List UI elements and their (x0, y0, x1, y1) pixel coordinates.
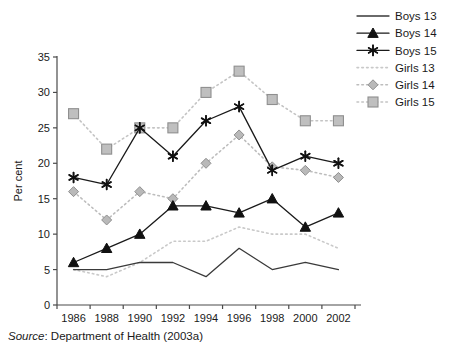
square-marker (102, 144, 112, 154)
triangle-marker (101, 243, 111, 252)
diamond-marker (333, 172, 343, 182)
y-axis-tick-label: 35 (38, 51, 50, 63)
series-girls-13 (74, 227, 339, 277)
line-chart: 05101520253035Per cent198619881990199219… (0, 0, 459, 352)
legend-label: Girls 14 (395, 79, 435, 91)
y-axis-tick-label: 30 (38, 86, 50, 98)
data-point-diamond (300, 165, 310, 175)
data-point-square (234, 66, 244, 76)
x-axis-tick-label: 1998 (260, 312, 284, 324)
x-axis-tick-label: 1990 (128, 312, 152, 324)
x-axis-tick-label: 1992 (161, 312, 185, 324)
legend-label: Boys 15 (395, 45, 437, 57)
square-marker (234, 66, 244, 76)
legend-label: Boys 13 (395, 10, 437, 22)
data-point-triangle (68, 257, 78, 266)
y-axis-title: Per cent (12, 161, 24, 202)
y-axis-tick-label: 20 (38, 157, 50, 169)
source-citation: : Department of Health (2003a) (44, 330, 203, 342)
legend-item-girls-13[interactable]: Girls 13 (357, 62, 435, 74)
data-point-square (368, 97, 378, 107)
legend-label: Girls 15 (395, 96, 435, 108)
data-point-square (69, 109, 79, 119)
data-point-square (300, 116, 310, 126)
legend-label: Girls 13 (395, 62, 435, 74)
square-marker (267, 95, 277, 105)
plot-area: 05101520253035Per cent198619881990199219… (12, 10, 437, 324)
data-point-square (201, 87, 211, 97)
x-axis-tick-label: 1986 (61, 312, 85, 324)
y-axis-tick-label: 10 (38, 228, 50, 240)
data-point-square (168, 123, 178, 133)
source-label: Source (8, 330, 44, 342)
square-marker (69, 109, 79, 119)
diamond-marker (300, 165, 310, 175)
series-line (74, 227, 339, 277)
y-axis-tick-label: 15 (38, 193, 50, 205)
series-line (74, 71, 339, 149)
x-axis-tick-label: 2002 (326, 312, 350, 324)
triangle-marker (68, 257, 78, 266)
square-marker (201, 87, 211, 97)
square-marker (168, 123, 178, 133)
series-line (74, 248, 339, 276)
series-boys-14 (68, 194, 343, 267)
source-note: Source: Department of Health (2003a) (8, 330, 203, 342)
square-marker (368, 97, 378, 107)
data-point-square (102, 144, 112, 154)
data-point-star (235, 102, 244, 112)
square-marker (333, 116, 343, 126)
diamond-marker (368, 80, 378, 90)
data-point-square (267, 95, 277, 105)
triangle-marker (267, 194, 277, 203)
x-axis-tick-label: 1988 (94, 312, 118, 324)
y-axis-tick-label: 0 (44, 299, 50, 311)
triangle-marker (333, 208, 343, 217)
y-axis-tick-label: 25 (38, 122, 50, 134)
chart-figure: 05101520253035Per cent198619881990199219… (0, 0, 459, 352)
x-axis-tick-label: 2000 (293, 312, 317, 324)
legend-label: Boys 14 (395, 27, 437, 39)
data-point-diamond (368, 80, 378, 90)
series-girls-15 (69, 66, 344, 154)
data-point-triangle (333, 208, 343, 217)
legend-item-boys-15[interactable]: Boys 15 (357, 45, 437, 57)
legend-item-girls-14[interactable]: Girls 14 (357, 79, 435, 91)
series-boys-13 (74, 248, 339, 276)
star-marker (235, 102, 244, 112)
data-point-triangle (267, 194, 277, 203)
x-axis-tick-label: 1996 (227, 312, 251, 324)
chart-legend: Boys 13Boys 14Boys 15Girls 13Girls 14Gir… (357, 10, 437, 108)
data-point-triangle (101, 243, 111, 252)
legend-item-boys-14[interactable]: Boys 14 (357, 27, 437, 39)
data-point-square (333, 116, 343, 126)
y-axis-tick-label: 5 (44, 264, 50, 276)
square-marker (300, 116, 310, 126)
legend-item-girls-15[interactable]: Girls 15 (357, 96, 435, 108)
legend-item-boys-13[interactable]: Boys 13 (357, 10, 437, 22)
data-point-diamond (333, 172, 343, 182)
x-axis-tick-label: 1994 (194, 312, 218, 324)
